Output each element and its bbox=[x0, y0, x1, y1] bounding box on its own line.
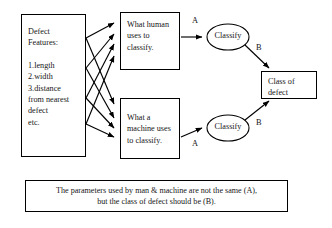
edge-machine-to-classify bbox=[181, 128, 202, 137]
edge-label-b-top: B bbox=[256, 43, 262, 52]
diagram-page: Defect Features: 1.length 2.width 3.dist… bbox=[0, 0, 332, 228]
classify-top-label: Classify bbox=[205, 31, 251, 40]
human-classify-box: What human uses to classify. bbox=[120, 12, 180, 70]
class-of-defect-box: Class of defect bbox=[261, 71, 317, 99]
caption-text: The parameters used by man & machine are… bbox=[50, 185, 263, 207]
edge-label-a-top: A bbox=[192, 16, 198, 25]
class-of-defect-text: Class of defect bbox=[268, 76, 316, 99]
machine-classify-text: What a machine uses to classify. bbox=[127, 112, 179, 146]
edge-label-b-bottom: B bbox=[256, 118, 262, 127]
machine-classify-box: What a machine uses to classify. bbox=[120, 98, 180, 159]
edge-feature-to-human-1 bbox=[86, 23, 114, 38]
caption-box: The parameters used by man & machine are… bbox=[25, 180, 288, 212]
feature-to-process-edges bbox=[86, 23, 114, 137]
defect-features-box: Defect Features: 1.length 2.width 3.dist… bbox=[21, 14, 86, 157]
defect-features-title: Defect Features: bbox=[28, 26, 85, 49]
defect-features-list: 1.length 2.width 3.distance from nearest… bbox=[28, 60, 85, 128]
edge-feature-to-machine-4 bbox=[86, 124, 114, 137]
human-classify-text: What human uses to classify. bbox=[127, 19, 179, 53]
classify-bottom-label: Classify bbox=[205, 122, 251, 131]
edge-label-a-bottom: A bbox=[192, 139, 198, 148]
